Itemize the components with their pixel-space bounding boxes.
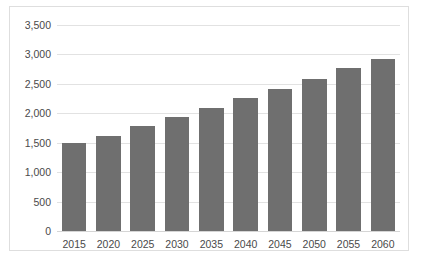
y-axis-tick-label: 3,500 [25,20,51,31]
bar-group-2060: 2060 [371,25,396,231]
bar-2015[interactable] [62,143,87,231]
y-axis-tick-label: 2,500 [25,79,51,90]
y-axis-tick-label: 2,000 [25,108,51,119]
bar-2020[interactable] [96,136,121,231]
x-axis-tick-label-2035: 2035 [200,239,223,250]
plot-area: 05001,0001,5002,0002,5003,0003,500 20152… [57,25,400,231]
bar-group-2040: 2040 [233,25,258,231]
bar-2055[interactable] [336,68,361,231]
bar-group-2055: 2055 [336,25,361,231]
bar-group-2050: 2050 [302,25,327,231]
y-axis-tick-label: 0 [45,226,51,237]
bar-2045[interactable] [268,89,293,231]
gridline-0: 0 [57,231,400,232]
x-axis-tick-label-2050: 2050 [303,239,326,250]
bar-group-2030: 2030 [165,25,190,231]
bar-2035[interactable] [199,108,224,231]
x-axis-tick-label-2045: 2045 [268,239,291,250]
y-axis-tick-label: 3,000 [25,49,51,60]
x-axis-tick-label-2060: 2060 [371,239,394,250]
bar-group-2025: 2025 [130,25,155,231]
chart-container: 05001,0001,5002,0002,5003,0003,500 20152… [9,6,409,251]
bars-group: 2015202020252030203520402045205020552060 [57,25,400,231]
x-axis-tick-label-2055: 2055 [337,239,360,250]
x-axis-tick-label-2020: 2020 [97,239,120,250]
y-axis-tick-label: 1,500 [25,137,51,148]
bar-2040[interactable] [233,98,258,231]
bar-group-2015: 2015 [62,25,87,231]
bar-group-2045: 2045 [268,25,293,231]
bar-2060[interactable] [371,59,396,231]
x-axis-tick-label-2030: 2030 [165,239,188,250]
x-axis-tick-label-2015: 2015 [62,239,85,250]
bar-group-2035: 2035 [199,25,224,231]
x-axis-tick-label-2040: 2040 [234,239,257,250]
bar-group-2020: 2020 [96,25,121,231]
y-axis-tick-label: 500 [33,196,51,207]
bar-2050[interactable] [302,79,327,231]
x-axis-tick-label-2025: 2025 [131,239,154,250]
y-axis-tick-label: 1,000 [25,167,51,178]
bar-2025[interactable] [130,126,155,231]
bar-2030[interactable] [165,117,190,231]
